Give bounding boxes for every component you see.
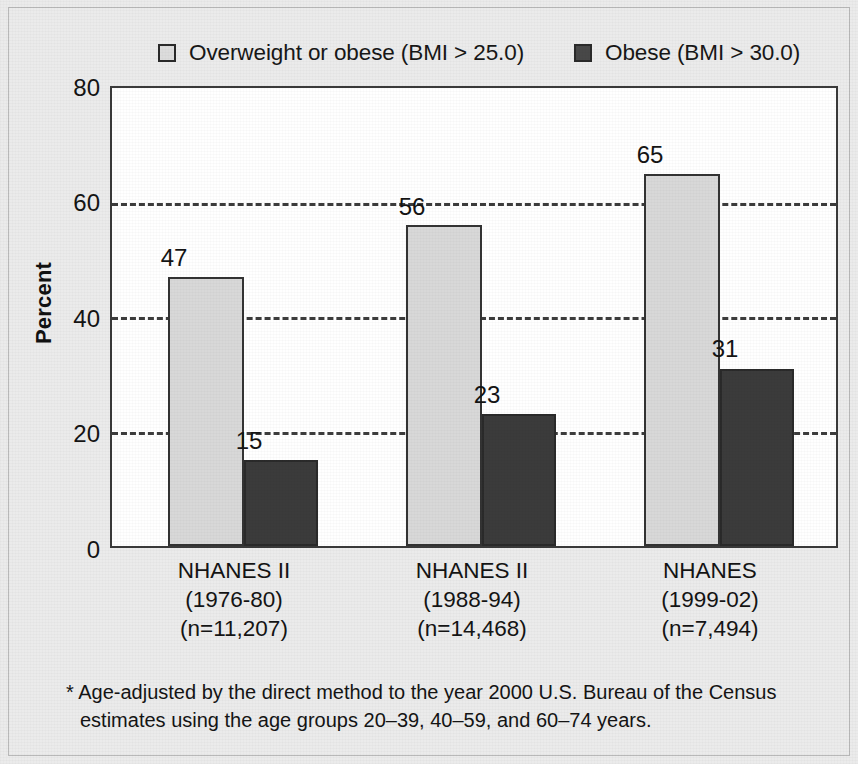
x-category-group2: NHANES II (1988-94) (n=14,468): [364, 556, 580, 643]
x-category-group3-line2: (1999-02): [661, 587, 759, 612]
bar-value-dark-group3: 31: [688, 335, 762, 363]
x-category-group3-line3: (n=7,494): [662, 616, 759, 641]
x-category-group1: NHANES II (1976-80) (n=11,207): [126, 556, 342, 643]
x-category-group3: NHANES (1999-02) (n=7,494): [602, 556, 818, 643]
y-axis-ticks: 80 60 40 20 0: [36, 0, 100, 764]
y-tick-0: 0: [40, 536, 100, 564]
bar-value-dark-group1: 15: [212, 427, 286, 455]
plot-inner: [112, 88, 836, 546]
x-category-group1-line3: (n=11,207): [180, 616, 288, 641]
x-category-group2-line3: (n=14,468): [417, 616, 526, 641]
chart-legend: Overweight or obese (BMI > 25.0) Obese (…: [110, 40, 840, 74]
x-category-group3-line1: NHANES: [663, 558, 757, 583]
bar-dark-group1: [244, 460, 318, 546]
x-category-group2-line1: NHANES II: [416, 558, 529, 583]
bar-value-dark-group2: 23: [450, 381, 524, 409]
bar-value-light-group1: 47: [136, 244, 212, 272]
x-category-group1-line2: (1976-80): [185, 587, 283, 612]
footnote-line-1: * Age-adjusted by the direct method to t…: [66, 678, 836, 706]
footnote-line-2: estimates using the age groups 20–39, 40…: [66, 706, 836, 734]
bar-light-group1: [168, 277, 244, 546]
x-category-group1-line1: NHANES II: [178, 558, 291, 583]
y-axis-title: Percent: [31, 243, 57, 363]
chart-figure: Overweight or obese (BMI > 25.0) Obese (…: [0, 0, 858, 764]
legend-label-obese: Obese (BMI > 30.0): [605, 40, 800, 66]
dark-square-icon: [574, 44, 592, 62]
legend-label-overweight: Overweight or obese (BMI > 25.0): [189, 40, 524, 66]
y-tick-60: 60: [40, 189, 100, 217]
y-tick-20: 20: [40, 420, 100, 448]
light-square-icon: [158, 44, 176, 62]
bar-dark-group2: [482, 414, 556, 546]
legend-entry-obese: Obese (BMI > 30.0): [574, 40, 800, 66]
bar-value-light-group2: 56: [374, 193, 450, 221]
plot-area: [110, 86, 838, 548]
gridline-60: [112, 203, 836, 206]
y-tick-80: 80: [40, 74, 100, 102]
bar-dark-group3: [720, 369, 794, 547]
bar-value-light-group3: 65: [612, 141, 688, 169]
x-category-group2-line2: (1988-94): [423, 587, 521, 612]
legend-entry-overweight: Overweight or obese (BMI > 25.0): [158, 40, 524, 66]
footnote: * Age-adjusted by the direct method to t…: [66, 678, 836, 734]
